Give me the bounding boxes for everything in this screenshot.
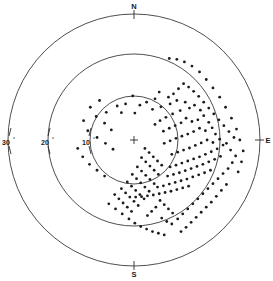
scatter-dot <box>144 174 147 177</box>
ring-30-tick-lower-icon <box>9 146 11 154</box>
scatter-dot <box>148 190 151 193</box>
scatter-dot <box>179 109 182 112</box>
scatter-dot <box>174 181 177 184</box>
scatter-dot <box>216 147 219 150</box>
scatter-dot <box>176 151 179 154</box>
scatter-dot <box>120 187 123 190</box>
scatter-dot <box>133 222 136 225</box>
scatter-dot <box>133 112 136 115</box>
scatter-dot <box>158 192 161 195</box>
scatter-dot <box>197 173 200 176</box>
scatter-dot <box>103 175 106 178</box>
scatter-dot <box>103 122 106 125</box>
scatter-dot <box>233 136 236 139</box>
scatter-dot <box>130 185 133 188</box>
scatter-dot <box>182 149 185 152</box>
scatter-dot <box>207 121 210 124</box>
scatter-dot <box>170 190 173 193</box>
scatter-dot <box>229 149 232 152</box>
scatter-dot <box>146 194 149 197</box>
scatter-dot <box>218 96 221 99</box>
scatter-dot <box>192 90 195 93</box>
scatter-dot <box>230 117 233 120</box>
scatter-dot <box>207 187 210 190</box>
scatter-dot <box>175 164 178 167</box>
scatter-dot <box>148 151 151 154</box>
scatter-dot <box>169 165 172 168</box>
scatter-dot <box>206 139 209 142</box>
scatter-dot <box>183 60 186 63</box>
scatter-dot <box>76 147 79 150</box>
scatter-dot <box>144 147 147 150</box>
scatter-dot <box>228 130 231 133</box>
scatter-dot <box>222 172 225 175</box>
scatter-dot <box>95 115 98 118</box>
scatter-dot <box>134 189 137 192</box>
scatter-dot <box>121 213 124 216</box>
scatter-dot <box>168 127 171 130</box>
scatter-dot <box>145 101 148 104</box>
scatter-dot <box>88 163 91 166</box>
scatter-dot <box>96 169 99 172</box>
scatter-dot <box>171 113 174 116</box>
scatter-dot <box>152 194 155 197</box>
scatter-dot <box>124 102 127 105</box>
scatter-dot <box>165 116 168 119</box>
scatter-dot <box>139 181 142 184</box>
scatter-dot <box>225 183 228 186</box>
scatter-dot <box>199 109 202 112</box>
scatter-dot <box>192 158 195 161</box>
scatter-dot <box>140 156 143 159</box>
scatter-dot <box>126 181 129 184</box>
scatter-dot <box>169 139 172 142</box>
scatter-dot <box>181 186 184 189</box>
scatter-dot <box>116 105 119 108</box>
svg-text:°: ° <box>13 136 15 142</box>
scatter-dot <box>180 179 183 182</box>
scatter-dot <box>154 206 157 209</box>
ring-label-30: 30 ° <box>2 136 15 146</box>
scatter-dot <box>210 201 213 204</box>
scatter-dot <box>184 169 187 172</box>
scatter-dot <box>175 188 178 191</box>
scatter-dot <box>198 155 201 158</box>
scatter-dot <box>140 170 143 173</box>
scatter-dot <box>171 212 174 215</box>
scatter-dot <box>213 158 216 161</box>
scatter-dot <box>186 207 189 210</box>
scatter-dot <box>196 197 199 200</box>
scatter-dot <box>184 101 187 104</box>
scatter-dot <box>137 204 140 207</box>
scatter-dot <box>231 161 234 164</box>
scatter-dot <box>175 58 178 61</box>
scatter-dot <box>153 182 156 185</box>
scatter-dot <box>212 113 215 116</box>
scatter-dot <box>104 142 107 145</box>
scatter-dot <box>237 171 240 174</box>
scatter-dot <box>203 171 206 174</box>
scatter-dot <box>207 160 210 163</box>
scatter-dot <box>131 173 134 176</box>
scatter-dot <box>191 65 194 68</box>
scatter-dot <box>169 102 172 105</box>
scatter-dot <box>145 228 148 231</box>
scatter-dot <box>174 124 177 127</box>
scatter-dot <box>143 197 146 200</box>
scatter-dot <box>156 186 159 189</box>
scatter-dot <box>191 176 194 179</box>
scatter-dot <box>81 155 84 158</box>
scatter-dot <box>166 175 169 178</box>
scatter-dot <box>191 202 194 205</box>
scatter-dot <box>86 129 89 132</box>
polar-plot-canvas: N E S 10 ° 20 ° 30 ° <box>0 0 273 281</box>
scatter-dot <box>200 142 203 145</box>
scatter-dot <box>107 202 110 205</box>
scatter-dot <box>158 91 161 94</box>
scatter-dot <box>202 114 205 117</box>
svg-text:10: 10 <box>82 139 90 146</box>
svg-text:20: 20 <box>41 139 49 146</box>
scatter-dot <box>190 221 193 224</box>
label-east: E <box>265 136 270 145</box>
scatter-dot <box>176 218 179 221</box>
svg-text:°: ° <box>52 136 54 142</box>
